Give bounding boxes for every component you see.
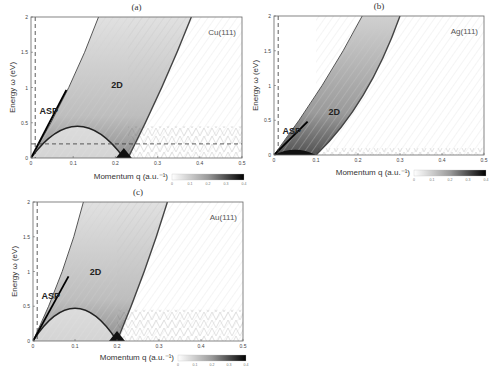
colorbar-tick-label: 0.1 <box>193 363 198 367</box>
y-tick-label: 0.5 <box>264 117 271 123</box>
annotation-2d: 2D <box>329 107 341 117</box>
y-tick-label: 1.5 <box>21 49 28 55</box>
colorbar-tick-label: 0.4 <box>242 182 247 186</box>
x-tick-label: 0 <box>273 157 276 163</box>
colorbar <box>414 170 486 176</box>
panel-letter: (b) <box>374 1 385 11</box>
x-tick-label: 0.4 <box>439 157 446 163</box>
colorbar-tick-label: 0.4 <box>244 363 249 367</box>
x-tick-label: 0.1 <box>72 343 79 349</box>
plot-area <box>274 16 484 155</box>
panel-au111: (c)Au(111)ASP2D00.10.20.30.40.500.511.52… <box>10 187 248 367</box>
x-tick-label: 0.2 <box>355 157 362 163</box>
colorbar-tick-label: 0 <box>413 178 415 182</box>
annotation-2d: 2D <box>111 80 123 90</box>
colorbar-tick-label: 0.3 <box>466 178 471 182</box>
colorbar-tick-label: 0.1 <box>188 182 193 186</box>
y-tick-label: 0.5 <box>21 120 28 126</box>
x-tick-label: 0 <box>32 343 35 349</box>
y-tick-label: 2 <box>25 14 28 20</box>
x-tick-label: 0.4 <box>196 160 203 166</box>
x-tick-label: 0.1 <box>70 160 77 166</box>
x-axis-label: Momentum q (a.u.⁻¹) <box>94 172 169 181</box>
colorbar-tick-label: 0 <box>171 182 173 186</box>
material-label: Au(111) <box>210 213 238 222</box>
plot-area <box>31 17 242 158</box>
y-tick-label: 0 <box>268 152 271 158</box>
x-tick-label: 0.3 <box>397 157 404 163</box>
panel-letter: (a) <box>132 2 142 12</box>
x-tick-label: 0 <box>30 160 33 166</box>
x-tick-label: 0.5 <box>240 343 247 349</box>
material-label: Ag(111) <box>451 27 479 36</box>
y-tick-label: 2 <box>268 13 271 19</box>
panel-ag111: (b)Ag(111)ASP2D00.10.20.30.40.500.511.52… <box>251 1 488 182</box>
y-tick-label: 0.5 <box>23 303 30 309</box>
y-tick-label: 2 <box>27 199 30 205</box>
x-tick-label: 0.3 <box>154 160 161 166</box>
x-tick-label: 0.1 <box>313 157 320 163</box>
y-tick-label: 0 <box>25 155 28 161</box>
panel-cu111: (a)Cu(111)ASP2D00.10.20.30.40.500.511.52… <box>8 2 246 186</box>
colorbar <box>172 174 244 180</box>
x-tick-label: 0.2 <box>112 160 119 166</box>
annotation-2d: 2D <box>90 267 102 277</box>
colorbar-tick-label: 0.4 <box>484 178 489 182</box>
y-axis-label: Energy ω (eV) <box>10 246 19 297</box>
y-tick-label: 0 <box>27 338 30 344</box>
figure: (a)Cu(111)ASP2D00.10.20.30.40.500.511.52… <box>0 0 497 378</box>
colorbar-tick-label: 0.2 <box>448 178 453 182</box>
y-tick-label: 1.5 <box>264 48 271 54</box>
x-tick-label: 0.5 <box>239 160 246 166</box>
annotation-asp: ASP <box>282 126 301 136</box>
annotation-asp: ASP <box>41 291 60 301</box>
y-tick-label: 1.5 <box>23 234 30 240</box>
colorbar-tick-label: 0.1 <box>430 178 435 182</box>
colorbar-tick-label: 0.2 <box>206 182 211 186</box>
y-axis-label: Energy ω (eV) <box>251 60 260 111</box>
material-label: Cu(111) <box>208 28 236 37</box>
x-axis-label: Momentum q (a.u.⁻¹) <box>100 353 175 362</box>
x-tick-label: 0.3 <box>156 343 163 349</box>
annotation-asp: ASP <box>39 106 58 116</box>
y-tick-label: 1 <box>27 269 30 275</box>
colorbar-tick-label: 0 <box>177 363 179 367</box>
colorbar-tick-label: 0.2 <box>210 363 215 367</box>
colorbar-tick-label: 0.3 <box>227 363 232 367</box>
panel-letter: (c) <box>133 187 143 197</box>
y-axis-label: Energy ω (eV) <box>8 62 17 113</box>
y-tick-label: 1 <box>268 83 271 89</box>
x-tick-label: 0.2 <box>114 343 121 349</box>
x-axis-label: Momentum q (a.u.⁻¹) <box>336 168 411 177</box>
plot-area <box>33 202 243 341</box>
x-tick-label: 0.5 <box>481 157 488 163</box>
x-tick-label: 0.4 <box>198 343 205 349</box>
colorbar-tick-label: 0.3 <box>224 182 229 186</box>
colorbar <box>178 355 246 361</box>
y-tick-label: 1 <box>25 85 28 91</box>
